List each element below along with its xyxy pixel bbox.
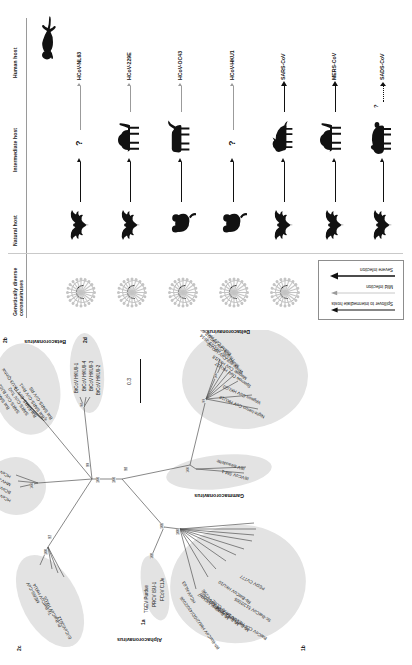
taxon-label: BtCoV HKU9-2 <box>96 365 101 395</box>
bootstrap-value: 98 <box>80 403 84 407</box>
civet-icon <box>268 118 294 156</box>
bootstrap-value: 100 <box>176 529 180 535</box>
column-header-human-host: Human host <box>12 48 18 78</box>
taxon-label: BtCoV HKU9-4 <box>82 361 87 391</box>
virion-icon <box>270 278 300 308</box>
unknown-host-marker: ? <box>227 141 237 147</box>
legend-item-mild: Mild infection <box>366 284 393 289</box>
panel-b-host-spillover: Genetically diverse coronaviruses Natura… <box>0 0 412 330</box>
genus-label-gammacoronavirus: Gammacoronavirus <box>194 493 244 499</box>
bat-icon <box>68 210 94 240</box>
taxon-label: BtCoV HKU9-1 <box>74 363 79 393</box>
virion-icon <box>117 278 147 308</box>
virus-name: HCoV-HKU1 <box>229 50 235 80</box>
bootstrap-value: 100 <box>150 553 154 559</box>
genus-label-alphacoronavirus: Alphacoronavirus <box>117 637 162 643</box>
bat-icon <box>119 210 145 240</box>
virion-icon <box>219 278 249 308</box>
bootstrap-value: 96 <box>44 417 48 421</box>
bootstrap-value: 100 <box>214 373 218 379</box>
bootstrap-value: 100 <box>160 523 164 529</box>
bootstrap-value: 97 <box>48 535 52 539</box>
figure-canvas: Genetically diverse coronaviruses Natura… <box>0 0 412 665</box>
virus-name: HCoV-NL63 <box>76 52 82 80</box>
taxon-label: BtCoV HKU9-3 <box>89 361 94 391</box>
bat-icon <box>323 210 349 240</box>
header-rule <box>26 18 27 318</box>
column-header-intermediate-host: Intermediate host <box>12 128 18 172</box>
camel-icon <box>314 118 344 158</box>
bootstrap-value: 99 <box>86 463 90 467</box>
bootstrap-value: 98 <box>124 467 128 471</box>
virus-name: HCoV-OC43 <box>177 51 183 80</box>
mouse-icon <box>170 206 196 238</box>
uncertain-human-marker: ? <box>373 104 379 108</box>
bat-icon <box>272 210 298 240</box>
panel-a-phylogenetic-tree: Alphacoronavirus Betacoronavirus Gammaco… <box>0 330 412 665</box>
taxon-label: FCoV C1Je <box>160 578 165 601</box>
virus-name: MERS-CoV <box>331 53 337 80</box>
bootstrap-value: 99 <box>202 399 206 403</box>
legend-item-spillover: Spillover to intermediate hosts <box>331 301 393 306</box>
virus-name: SADS-CoV <box>379 53 385 80</box>
scale-bar-label: 0.3 <box>126 378 132 385</box>
taxon-label: TGEV Purdue <box>144 585 149 613</box>
bootstrap-value: 100 <box>186 467 190 473</box>
taxon-label: PRCV ISU-1 <box>152 582 157 607</box>
clade-id-1a: 1a <box>140 619 146 625</box>
clade-id-2d: 2d <box>82 337 88 343</box>
legend-box: Spillover to intermediate hosts Mild inf… <box>318 260 404 320</box>
clade-id-2b: 2b <box>2 337 8 343</box>
pig-icon <box>366 118 394 158</box>
scale-bar <box>140 359 141 403</box>
unknown-host-marker: ? <box>74 141 84 147</box>
column-header-natural-host: Natural host <box>12 215 18 246</box>
virion-icon <box>168 278 198 308</box>
bat-icon <box>371 210 397 240</box>
clade-id-1b: 1b <box>300 645 306 651</box>
bootstrap-value: 100 <box>44 549 48 555</box>
clade-id-2c: 2c <box>16 645 22 651</box>
bootstrap-value: 100 <box>112 477 116 483</box>
genus-label-betacoronavirus: Betacoronavirus <box>24 339 66 345</box>
column-divider <box>8 253 403 254</box>
mouse-icon <box>221 206 247 238</box>
legend-item-severe: Severe infection <box>360 267 393 272</box>
human-silhouette-icon <box>34 16 60 62</box>
virion-icon <box>66 278 96 308</box>
bootstrap-value: 100 <box>96 477 100 483</box>
camel-icon <box>112 118 142 158</box>
cattle-icon <box>163 118 193 158</box>
column-header-coronaviruses: Genetically diverse coronaviruses <box>12 268 24 316</box>
bootstrap-value: 100 <box>30 483 34 489</box>
virus-name: SARS-CoV <box>280 53 286 80</box>
virus-name: HCoV-229E <box>126 52 132 80</box>
